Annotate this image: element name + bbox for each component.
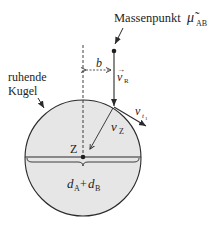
sphere-label-line2: Kugel	[8, 84, 38, 98]
center-label: Z	[70, 142, 77, 156]
particle-pointer-arrow	[115, 28, 123, 44]
plus-sign: +	[80, 177, 87, 191]
vZ-label: v	[111, 119, 117, 134]
impact-parameter-label: b	[96, 56, 102, 70]
vR-subscript: R	[124, 77, 129, 85]
sphere-label-line1: ruhende	[8, 70, 47, 84]
sphere-pointer-arrow	[38, 98, 44, 108]
vt-label: v	[135, 104, 141, 118]
particle-point	[112, 49, 117, 54]
diameter-b-label: d	[88, 176, 95, 191]
particle-label: Massenpunkt	[114, 11, 181, 25]
diameter-a-label: d	[67, 176, 74, 191]
diameter-b-subscript: B	[95, 184, 100, 193]
center-point	[81, 155, 86, 160]
vR-vector-mark: →	[117, 65, 125, 74]
collision-diagram: Massenpunkt μ̃ AB b v → R ruhende Kugel …	[0, 0, 222, 225]
vZ-subscript: Z	[119, 127, 124, 136]
vt-subsubscript: 1	[145, 116, 148, 121]
mu-subscript: AB	[196, 19, 207, 28]
